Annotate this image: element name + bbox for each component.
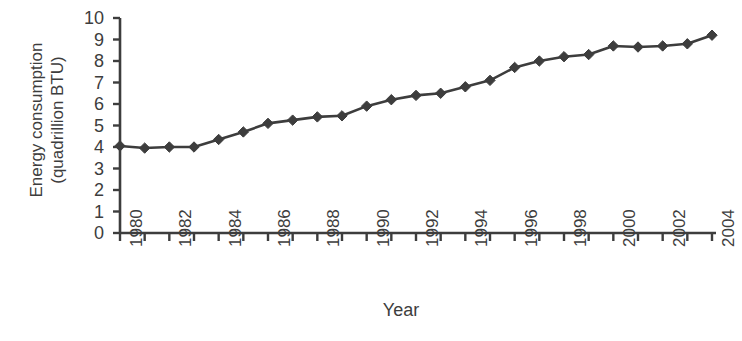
data-point-marker: [460, 82, 470, 92]
data-point-marker: [361, 101, 371, 111]
y-axis-tick-label: 8: [76, 51, 104, 72]
data-point-marker: [238, 127, 248, 137]
data-point-marker: [509, 62, 519, 72]
y-axis-tick-label: 10: [76, 8, 104, 29]
data-point-marker: [657, 41, 667, 51]
data-point-marker: [337, 111, 347, 121]
x-axis-tick-label: 2002: [670, 209, 690, 247]
y-axis-tick-label: 0: [76, 223, 104, 244]
data-point-marker: [485, 75, 495, 85]
data-point-marker: [633, 42, 643, 52]
y-axis-tick-label: 2: [76, 180, 104, 201]
x-axis-tick-label: 1994: [472, 209, 492, 247]
chart-svg: [0, 0, 742, 300]
data-point-marker: [435, 88, 445, 98]
x-axis-tick-label: 1990: [374, 209, 394, 247]
x-axis-tick-label: 1986: [275, 209, 295, 247]
y-axis-tick-label: 5: [76, 115, 104, 136]
plot-area: [0, 0, 742, 304]
x-axis-tick-label: 1998: [571, 209, 591, 247]
data-point-marker: [312, 112, 322, 122]
x-axis-tick-label: 1988: [324, 209, 344, 247]
x-axis-title: Year: [0, 300, 742, 321]
data-point-marker: [583, 49, 593, 59]
data-point-marker: [559, 52, 569, 62]
y-axis-tick-label: 3: [76, 158, 104, 179]
x-axis-title-text: Year: [383, 300, 419, 320]
data-point-marker: [115, 141, 125, 151]
y-axis-tick-label: 9: [76, 29, 104, 50]
y-axis-tick-label: 4: [76, 137, 104, 158]
x-axis-tick-label: 2000: [620, 209, 640, 247]
data-point-marker: [263, 118, 273, 128]
y-axis-tick-label: 1: [76, 201, 104, 222]
x-axis-tick-label: 1996: [522, 209, 542, 247]
y-axis-tick-label: 6: [76, 94, 104, 115]
data-point-marker: [682, 39, 692, 49]
data-point-marker: [386, 95, 396, 105]
data-point-marker: [287, 115, 297, 125]
x-axis-tick-label: 1984: [226, 209, 246, 247]
data-point-marker: [139, 143, 149, 153]
x-axis-tick-label: 1982: [176, 209, 196, 247]
data-point-marker: [707, 30, 717, 40]
chart-figure: Energy consumption (quadrillion BTU) 012…: [0, 0, 742, 341]
x-axis-tick-label: 1980: [127, 209, 147, 247]
data-point-marker: [608, 41, 618, 51]
data-point-marker: [213, 134, 223, 144]
data-point-marker: [534, 56, 544, 66]
data-point-marker: [411, 90, 421, 100]
data-point-marker: [164, 142, 174, 152]
x-axis-tick-label: 2004: [719, 209, 739, 247]
y-axis-tick-label: 7: [76, 72, 104, 93]
x-axis-tick-label: 1992: [423, 209, 443, 247]
data-point-marker: [189, 142, 199, 152]
